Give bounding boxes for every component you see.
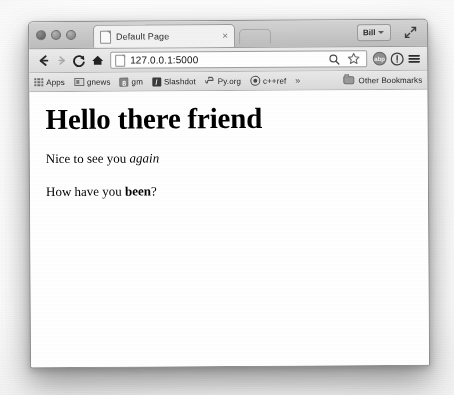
bookmark-apps[interactable]: Apps — [34, 78, 65, 87]
bookmarks-bar: Apps gnews 8 gm / Slashdot — [29, 71, 427, 92]
browser-toolbar: 127.0.0.1:5000 — [29, 47, 427, 73]
minimize-window-button[interactable] — [51, 30, 61, 40]
bookmark-label: Other Bookmarks — [359, 75, 423, 84]
page-info-button[interactable] — [388, 49, 405, 67]
bookmark-label: gm — [132, 77, 143, 86]
folder-icon — [344, 76, 355, 84]
bookmark-star-button[interactable] — [345, 50, 362, 68]
bookmark-gm[interactable]: 8 gm — [120, 77, 143, 86]
bookmark-slashdot[interactable]: / Slashdot — [152, 77, 196, 86]
bookmark-label: Py.org — [218, 76, 241, 85]
bookmark-label: gnews — [87, 77, 111, 86]
bookmarks-overflow-button[interactable]: » — [295, 76, 300, 86]
address-bar[interactable]: 127.0.0.1:5000 — [110, 50, 367, 69]
back-arrow-icon — [37, 54, 50, 67]
paragraph-text: How have you — [46, 183, 125, 198]
chevron-down-icon — [378, 31, 384, 34]
bookmark-label: Slashdot — [164, 77, 196, 86]
window-controls — [36, 30, 76, 40]
hamburger-menu-icon — [407, 51, 421, 65]
tab-default-page[interactable]: Default Page × — [93, 24, 235, 48]
home-icon — [91, 54, 104, 67]
forward-arrow-icon — [55, 54, 68, 67]
bookmark-other-bookmarks[interactable]: Other Bookmarks — [344, 75, 423, 84]
apps-grid-icon — [34, 78, 43, 87]
document-icon — [115, 54, 125, 66]
new-tab-button[interactable] — [239, 29, 271, 44]
page-title: Hello there friend — [45, 102, 411, 135]
paragraph-emphasis: again — [130, 151, 160, 166]
python-icon — [205, 76, 215, 86]
chrome-menu-button[interactable] — [405, 49, 422, 67]
page-paragraph-question: How have you been? — [46, 182, 412, 200]
abp-extension-icon: abp — [372, 51, 387, 66]
paragraph-strong: been — [125, 183, 151, 198]
photo-backdrop: Default Page × Bill — [0, 0, 454, 395]
cppref-icon — [250, 76, 260, 86]
abp-extension-button[interactable]: abp — [371, 50, 388, 68]
info-circle-icon — [390, 51, 404, 65]
back-button[interactable] — [34, 52, 52, 70]
magnifier-icon — [328, 53, 340, 65]
reload-icon — [72, 53, 86, 67]
fullscreen-arrows-icon — [403, 26, 416, 39]
reload-button[interactable] — [70, 51, 88, 69]
slashdot-icon: / — [152, 77, 161, 86]
star-icon — [347, 52, 360, 65]
document-icon — [100, 30, 111, 43]
bookmark-cppref[interactable]: c++ref — [250, 76, 286, 86]
gm-icon: 8 — [120, 77, 129, 86]
forward-button[interactable] — [52, 51, 70, 69]
browser-window: Default Page × Bill — [28, 19, 430, 368]
close-window-button[interactable] — [36, 30, 46, 40]
bookmark-label: Apps — [46, 78, 65, 87]
bookmark-gnews[interactable]: gnews — [74, 77, 111, 86]
home-button[interactable] — [88, 51, 106, 69]
bookmark-pyorg[interactable]: Py.org — [205, 76, 241, 86]
fullscreen-button[interactable] — [399, 24, 421, 41]
tab-strip: Default Page × Bill — [29, 20, 427, 49]
page-viewport: Hello there friend Nice to see you again… — [29, 90, 429, 368]
zoom-indicator-button[interactable] — [325, 50, 342, 68]
gnews-icon — [74, 78, 84, 86]
paragraph-tail: ? — [151, 183, 157, 198]
svg-text:abp: abp — [374, 56, 385, 62]
tab-title: Default Page — [116, 31, 222, 42]
page-paragraph-greeting: Nice to see you again — [46, 149, 412, 167]
zoom-window-button[interactable] — [66, 30, 76, 40]
url-text[interactable]: 127.0.0.1:5000 — [130, 53, 325, 65]
paragraph-text: Nice to see you — [46, 151, 130, 167]
close-icon[interactable]: × — [222, 31, 228, 41]
profile-button[interactable]: Bill — [357, 24, 391, 41]
profile-name: Bill — [363, 28, 376, 37]
bookmark-label: c++ref — [263, 76, 286, 85]
